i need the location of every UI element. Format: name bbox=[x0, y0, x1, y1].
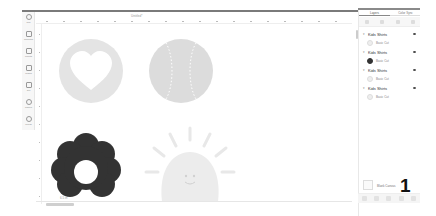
layer-item[interactable]: Basic Cut bbox=[359, 92, 421, 101]
chevron-down-icon[interactable]: ▾ bbox=[363, 32, 366, 36]
chevron-down-icon[interactable]: ▾ bbox=[363, 68, 366, 72]
ruler-tick bbox=[80, 21, 82, 22]
tool-projects[interactable]: Projects bbox=[22, 46, 35, 62]
slice-button[interactable] bbox=[362, 196, 367, 201]
delete-icon[interactable] bbox=[411, 20, 415, 24]
shapes-icon bbox=[26, 99, 32, 105]
tool-upload[interactable]: Upload bbox=[22, 114, 35, 130]
ruler-tick bbox=[39, 142, 40, 143]
ruler-tick bbox=[114, 21, 116, 22]
tool-label: New bbox=[26, 21, 30, 23]
blank-canvas-swatch[interactable] bbox=[363, 180, 373, 190]
tool-label: Upload bbox=[25, 123, 31, 125]
eye-icon[interactable] bbox=[413, 51, 416, 53]
horizontal-scrollbar[interactable] bbox=[46, 203, 74, 206]
tab-color-sync[interactable]: Color Sync bbox=[390, 10, 421, 16]
ruler-tick bbox=[165, 21, 167, 22]
chevron-down-icon[interactable]: ▾ bbox=[363, 86, 366, 90]
ruler-tick bbox=[46, 21, 48, 22]
ruler-tick bbox=[335, 21, 337, 22]
ruler-tick bbox=[318, 21, 320, 22]
group-icon[interactable] bbox=[365, 20, 369, 24]
plus-circle-icon bbox=[26, 14, 32, 20]
image-icon bbox=[26, 65, 32, 71]
panel-tabs: Layers Color Sync bbox=[359, 10, 421, 16]
ruler-tick bbox=[250, 21, 252, 22]
text-icon bbox=[26, 82, 32, 88]
left-toolbar: New Templates Projects Images Text Shape… bbox=[22, 12, 35, 130]
tool-label: Shapes bbox=[25, 106, 32, 108]
weld-button[interactable] bbox=[374, 196, 379, 201]
ruler-tick bbox=[216, 21, 218, 22]
ruler-tick bbox=[284, 21, 286, 22]
eye-icon[interactable] bbox=[413, 87, 416, 89]
ruler-tick bbox=[39, 52, 40, 53]
layer-operation: Basic Cut bbox=[376, 95, 389, 99]
eye-icon[interactable] bbox=[413, 69, 416, 71]
heart-circle-shape[interactable] bbox=[58, 38, 124, 104]
layer-operation: Basic Cut bbox=[376, 59, 389, 63]
ungroup-icon[interactable] bbox=[380, 20, 384, 24]
top-ruler: Untitled* bbox=[36, 12, 352, 24]
tool-shapes[interactable]: Shapes bbox=[22, 97, 35, 113]
group-name: Kids Shirts bbox=[368, 32, 387, 37]
tool-label: Images bbox=[25, 72, 32, 74]
layer-tools bbox=[359, 17, 421, 27]
group-name: Kids Shirts bbox=[368, 86, 387, 91]
layer-item[interactable]: Basic Cut bbox=[359, 38, 421, 47]
layer-thumbnail bbox=[367, 94, 373, 100]
layer-thumbnail bbox=[367, 58, 373, 64]
layer-item[interactable]: Basic Cut bbox=[359, 56, 421, 65]
blank-canvas-label: Blank Canvas bbox=[377, 184, 396, 188]
sun-shape[interactable] bbox=[140, 124, 240, 204]
ruler-tick bbox=[39, 70, 40, 71]
ruler-tick bbox=[39, 124, 40, 125]
tab-layers[interactable]: Layers bbox=[359, 10, 390, 16]
layer-group[interactable]: ▾ Kids Shirts Basic Cut bbox=[359, 66, 421, 83]
layer-group[interactable]: ▾ Kids Shirts Basic Cut bbox=[359, 48, 421, 65]
baseball-shape[interactable] bbox=[148, 38, 214, 104]
ruler-tick bbox=[39, 88, 40, 89]
eye-icon[interactable] bbox=[413, 33, 416, 35]
tool-label: Text bbox=[27, 89, 31, 91]
tool-templates[interactable]: Templates bbox=[22, 29, 35, 45]
ruler-tick bbox=[301, 21, 303, 22]
layer-group[interactable]: ▾ Kids Shirts Basic Cut bbox=[359, 84, 421, 101]
layer-group[interactable]: ▾ Kids Shirts Basic Cut bbox=[359, 30, 421, 47]
tool-new[interactable]: New bbox=[22, 12, 35, 28]
flatten-button[interactable] bbox=[399, 196, 404, 201]
ruler-tick bbox=[182, 21, 184, 22]
flower-shape[interactable] bbox=[50, 132, 122, 204]
group-name: Kids Shirts bbox=[368, 68, 387, 73]
canvas-bottom-divider bbox=[36, 201, 352, 202]
layer-actions-bar bbox=[358, 193, 420, 203]
attach-button[interactable] bbox=[386, 196, 391, 201]
tool-text[interactable]: Text bbox=[22, 80, 35, 96]
ruler-tick bbox=[131, 21, 133, 22]
layer-item[interactable]: Basic Cut bbox=[359, 74, 421, 83]
panel-divider bbox=[358, 8, 420, 10]
duplicate-icon[interactable] bbox=[396, 20, 400, 24]
ruler-tick bbox=[39, 106, 40, 107]
design-canvas[interactable]: 6.5 in bbox=[42, 24, 352, 206]
flower-size-label: 6.5 in bbox=[60, 196, 67, 200]
layer-operation: Basic Cut bbox=[376, 77, 389, 81]
layer-thumbnail bbox=[367, 40, 373, 46]
layer-operation: Basic Cut bbox=[376, 41, 389, 45]
tool-images[interactable]: Images bbox=[22, 63, 35, 79]
ruler-tick bbox=[63, 21, 65, 22]
ruler-tick bbox=[233, 21, 235, 22]
group-name: Kids Shirts bbox=[368, 50, 387, 55]
ruler-tick bbox=[97, 21, 99, 22]
design-space-app: New Templates Projects Images Text Shape… bbox=[0, 0, 436, 216]
tool-label: Projects bbox=[25, 55, 32, 57]
contour-button[interactable] bbox=[411, 196, 416, 201]
upload-icon bbox=[26, 116, 32, 122]
chevron-down-icon[interactable]: ▾ bbox=[363, 50, 366, 54]
right-margin bbox=[420, 8, 436, 216]
ruler-tick bbox=[39, 34, 40, 35]
ruler-tick bbox=[39, 178, 40, 179]
ruler-tick bbox=[39, 160, 40, 161]
tshirt-icon bbox=[26, 31, 32, 37]
project-title: Untitled* bbox=[131, 14, 142, 18]
